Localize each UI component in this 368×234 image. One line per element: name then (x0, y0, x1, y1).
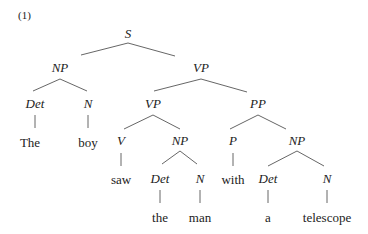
node-v: V (117, 134, 125, 147)
tree-edge (153, 115, 180, 129)
node-vp1: VP (193, 61, 209, 74)
node-np3: NP (289, 134, 306, 147)
parse-tree-diagram: (1) SNPVPDetNVPPPTheboyVNPPNPsawDetNwith… (0, 0, 368, 234)
tree-edge (180, 151, 197, 164)
node-n1: N (84, 97, 93, 110)
leaf-word-w_man: man (189, 211, 211, 224)
node-det1: Det (26, 97, 45, 110)
tree-edge (33, 79, 60, 91)
leaf-word-w_the2: the (152, 211, 168, 224)
tree-edges (0, 0, 368, 234)
tree-edge (230, 115, 258, 129)
leaf-word-w_telescope: telescope (303, 211, 351, 224)
tree-edge (154, 79, 201, 91)
leaf-word-w_a: a (265, 211, 271, 224)
node-pp: PP (250, 97, 266, 110)
tree-edge (124, 115, 153, 129)
tree-edge (297, 151, 324, 166)
tree-edge (268, 151, 297, 166)
node-vp2: VP (145, 97, 161, 110)
leaf-word-w_saw: saw (111, 173, 131, 186)
node-np1: NP (52, 61, 69, 74)
tree-edge (60, 79, 87, 91)
node-s: S (125, 27, 132, 40)
node-det3: Det (259, 172, 278, 185)
tree-edge (128, 43, 175, 56)
leaf-word-w_boy: boy (78, 136, 98, 149)
leaf-word-w_the: The (20, 136, 40, 149)
node-det2: Det (151, 172, 170, 185)
tree-edge (81, 43, 128, 55)
tree-edge (162, 151, 180, 164)
node-n2: N (196, 172, 205, 185)
node-n3: N (323, 172, 332, 185)
node-p: P (229, 134, 237, 147)
tree-edge (258, 115, 286, 129)
tree-edge (201, 79, 247, 92)
leaf-word-w_with: with (221, 173, 244, 186)
node-np2: NP (172, 134, 189, 147)
